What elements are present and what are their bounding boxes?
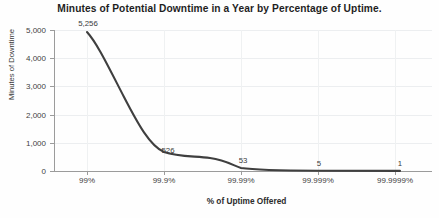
chart-container: Minutes of Potential Downtime in a Year … bbox=[0, 0, 439, 218]
point-label-99: 5,256 bbox=[78, 19, 98, 28]
point-label-999: 526 bbox=[161, 146, 174, 155]
line-series bbox=[0, 0, 439, 218]
point-label-99999: 5 bbox=[317, 159, 321, 168]
x-axis-title: % of Uptime Offered bbox=[54, 196, 439, 206]
point-label-999999: 1 bbox=[398, 159, 402, 168]
point-label-9999: 53 bbox=[239, 156, 248, 165]
